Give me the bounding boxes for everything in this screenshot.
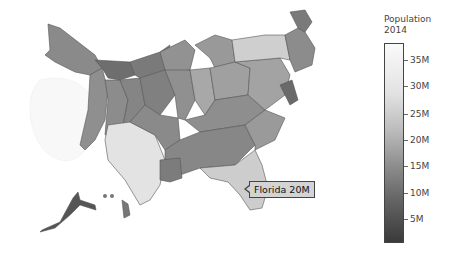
- state-california[interactable]: [30, 78, 90, 161]
- state-minnesota-wi[interactable]: [160, 40, 195, 72]
- cartogram-map[interactable]: [0, 0, 380, 261]
- colorbar-title-line1: Population: [384, 14, 431, 25]
- colorbar-tick: 20M: [404, 135, 429, 145]
- us-cartogram-svg: [0, 0, 380, 261]
- state-alaska[interactable]: [40, 192, 96, 232]
- colorbar-title-line2: 2014: [384, 25, 431, 36]
- colorbar: [384, 43, 404, 243]
- colorbar-tick: 25M: [404, 109, 429, 119]
- state-indiana-ohio[interactable]: [210, 62, 250, 100]
- hover-tooltip: Florida 20M: [249, 181, 315, 198]
- state-michigan[interactable]: [195, 35, 235, 68]
- state-new-england[interactable]: [285, 28, 315, 72]
- colorbar-tick: 35M: [404, 55, 429, 65]
- colorbar-tick: 10M: [404, 188, 429, 198]
- colorbar-tick: 30M: [404, 81, 429, 91]
- colorbar-tick: 5M: [404, 214, 424, 224]
- state-new-york[interactable]: [232, 35, 290, 62]
- colorbar-title: Population 2014: [384, 14, 431, 36]
- state-hawaii-islands: [103, 194, 107, 198]
- state-washington-oregon[interactable]: [45, 24, 102, 75]
- state-maine[interactable]: [290, 10, 312, 32]
- state-hawaii-islands-2: [110, 194, 114, 198]
- state-hawaii[interactable]: [122, 200, 130, 218]
- state-louisiana[interactable]: [160, 158, 182, 182]
- colorbar-tick: 15M: [404, 161, 429, 171]
